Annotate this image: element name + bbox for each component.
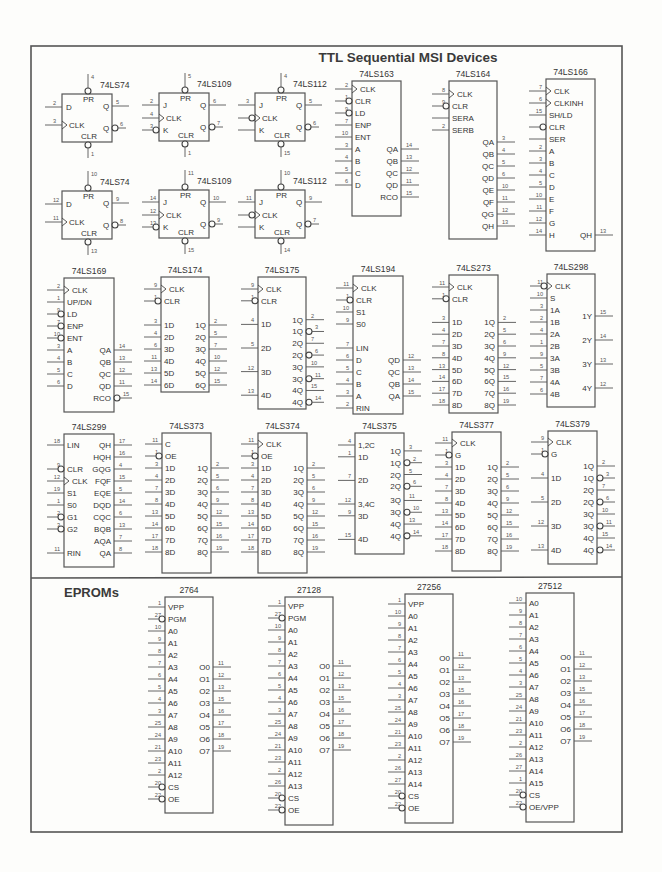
pin-number: 3: [519, 680, 522, 686]
pin-label: 7D: [455, 535, 465, 544]
pin-label: 5D: [261, 512, 271, 521]
eprom-27128: 271281VPP27PGM10A09A18A27A36A45A54A63A72…: [268, 585, 351, 825]
pin-number: 9: [503, 351, 506, 357]
pin-number: 20: [155, 780, 161, 786]
clock-triangle-icon: [449, 283, 454, 291]
pin-label: 4D: [164, 357, 174, 366]
pin-number: 12: [218, 672, 224, 678]
chip-name: 74LS379: [555, 419, 590, 429]
pin-number: 10: [413, 505, 419, 511]
pin-label: A9: [168, 735, 178, 744]
pin-number: 1: [188, 150, 191, 156]
pin-number: 7: [251, 485, 254, 491]
pin-label: 3Q: [292, 375, 303, 384]
pin-label: PR: [83, 192, 94, 201]
eprom-27512: 2751210A09A18A27A36A45A54A63A725A824A921…: [509, 581, 592, 822]
pin-label: A11: [529, 731, 543, 740]
pin-label: A4: [529, 647, 539, 656]
chip-name: 74LS175: [265, 265, 300, 275]
pin-label: A3: [168, 663, 178, 672]
pin-number: 25: [516, 692, 522, 698]
pin-number: 9: [312, 497, 315, 503]
pin-number: 9: [217, 217, 220, 223]
chip-74ls164: 74LS1648CLK9CLRSERA2SERBQA3QB4QC5QD6QE10…: [432, 69, 515, 239]
pin-label: 2D: [452, 330, 462, 339]
pin-number: 15: [214, 378, 220, 384]
pin-number: 27: [275, 611, 281, 617]
inversion-bubble: [305, 124, 311, 130]
pin-number: 5: [519, 656, 522, 662]
pin-number: 15: [406, 190, 412, 196]
pin-label: A0: [288, 626, 298, 635]
pin-number: 1: [398, 597, 401, 603]
pin-label: A9: [288, 734, 298, 743]
inversion-bubble: [306, 328, 312, 334]
pin-label: CLK: [361, 284, 377, 293]
chip-name: 74LS164: [456, 69, 491, 79]
pin-label: LD: [67, 310, 77, 319]
pin-label: CLK: [555, 282, 571, 291]
pin-number: 7: [348, 473, 351, 479]
pin-label: A1: [168, 639, 178, 648]
pin-label: 5D: [452, 366, 462, 375]
pin-label: 1Q: [292, 327, 303, 336]
pin-label: 1Q: [293, 464, 304, 473]
inversion-bubble: [278, 141, 284, 147]
pin-label: 8D: [261, 548, 271, 557]
pin-label: ENT: [355, 133, 371, 142]
pin-label: S0: [356, 320, 366, 329]
pin-label: A12: [168, 771, 183, 780]
pin-label: O4: [199, 711, 210, 720]
pin-label: 2D: [261, 344, 271, 353]
chip-name: 74LS112: [293, 79, 327, 89]
pin-label: 2Q: [390, 471, 401, 480]
pin-number: 4: [150, 111, 153, 117]
pin-number: 4: [284, 73, 287, 79]
chip-name: 2764: [179, 585, 198, 595]
pin-number: 13: [600, 357, 606, 363]
chip-name: 27128: [297, 585, 321, 595]
pin-number: 11: [606, 519, 612, 525]
pin-label: O2: [560, 677, 571, 686]
clock-triangle-icon: [159, 114, 164, 122]
pin-label: 5Q: [484, 366, 495, 375]
pin-number: 9: [216, 497, 219, 503]
pin-label: 1B: [550, 318, 560, 327]
chip-name: 74LS109: [197, 79, 232, 89]
pin-label: 1Y: [582, 312, 592, 321]
pin-label: Q: [200, 220, 206, 229]
pin-number: 15: [123, 391, 129, 397]
pin-number: 5: [506, 472, 509, 478]
pin-number: 14: [152, 521, 158, 527]
pin-number: 11: [343, 281, 349, 287]
pin-label: OE: [288, 806, 300, 815]
pin-number: 25: [275, 719, 281, 725]
pin-number: 12: [458, 663, 464, 669]
pin-label: 1Q: [390, 459, 401, 468]
pin-label: O3: [560, 689, 571, 698]
pin-label: K: [259, 126, 265, 135]
pin-number: 12: [312, 509, 318, 515]
pin-number: 2: [158, 768, 161, 774]
pin-number: 15: [284, 150, 290, 156]
pin-number: 4: [154, 330, 157, 336]
pin-label: QH: [482, 222, 494, 231]
inversion-bubble: [305, 221, 311, 227]
pin-label: O1: [199, 675, 210, 684]
pin-label: 1D: [455, 463, 465, 472]
pin-label: Q: [296, 198, 302, 207]
pin-number: 21: [275, 743, 281, 749]
pin-label: A2: [529, 623, 539, 632]
pin-label: CLK: [166, 211, 182, 220]
pin-number: 4: [57, 355, 60, 361]
pin-number: 16: [119, 450, 125, 456]
pin-number: 10: [91, 171, 97, 177]
pin-number: 1: [158, 600, 161, 606]
pin-label: QC: [386, 169, 398, 178]
pin-label: 8Q: [293, 548, 304, 557]
inversion-bubble: [182, 141, 188, 147]
pin-number: 20: [516, 788, 522, 794]
pin-label: 3D: [455, 487, 465, 496]
pin-label: 5Q: [197, 512, 208, 521]
pin-label: CQC: [93, 513, 111, 522]
